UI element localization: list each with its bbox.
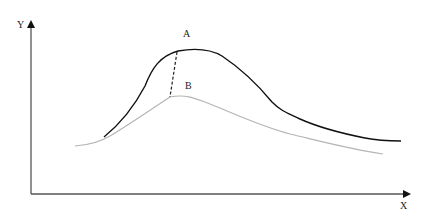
x-axis-label: X <box>400 200 408 211</box>
point-a-label: A <box>183 28 191 39</box>
curve-diagram: Y X A B <box>0 0 426 223</box>
point-b-label: B <box>185 80 192 91</box>
y-axis-label: Y <box>17 19 24 30</box>
upper-curve <box>104 49 401 141</box>
lower-curve <box>75 96 383 154</box>
a-b-dashed-connector <box>170 52 177 97</box>
